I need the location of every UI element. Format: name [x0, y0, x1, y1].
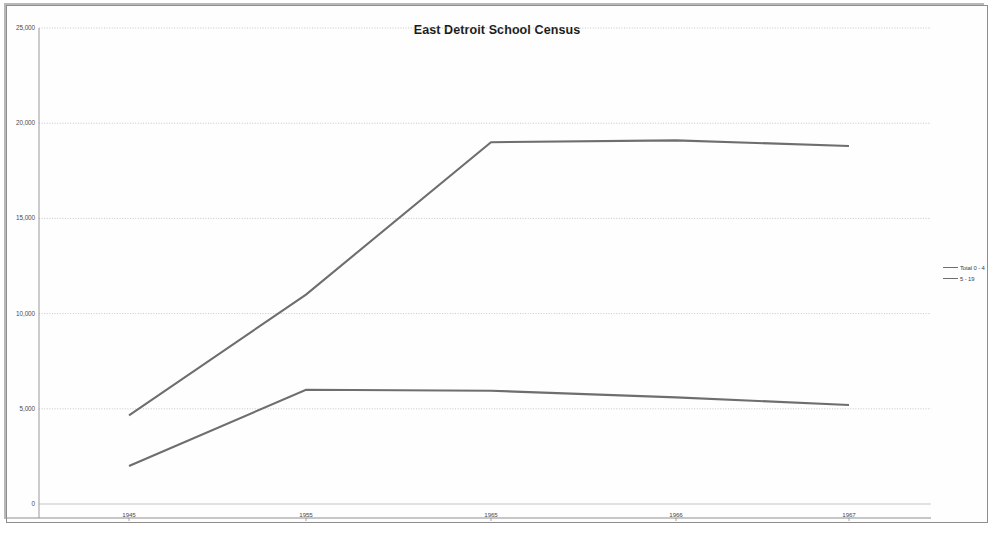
chart-page: East Detroit School Census 05,00010,0001… — [0, 0, 998, 535]
y-tick-label-25000: 25,000 — [1, 24, 35, 31]
y-tick-label-10000: 10,000 — [1, 310, 35, 317]
axis-lines — [7, 28, 931, 518]
y-tick-label-20000: 20,000 — [1, 119, 35, 126]
legend-swatch-line-icon — [943, 278, 958, 279]
line-chart-plot — [7, 6, 989, 524]
x-tick-label-1966: 1966 — [656, 511, 696, 518]
chart-frame: East Detroit School Census 05,00010,0001… — [6, 5, 988, 523]
legend-item-1[interactable]: 5 - 19 — [943, 273, 985, 284]
series-line-1 — [129, 390, 849, 466]
chart-legend: Total 0 - 45 - 19 — [943, 262, 985, 284]
y-tick-label-5000: 5,000 — [1, 405, 35, 412]
gridlines — [39, 28, 931, 504]
y-tick-label-0: 0 — [1, 500, 35, 507]
legend-item-label: Total 0 - 4 — [960, 265, 985, 271]
series-line-0 — [129, 140, 849, 415]
x-tick-label-1955: 1955 — [286, 511, 326, 518]
x-tick-label-1945: 1945 — [109, 511, 149, 518]
x-tick-label-1967: 1967 — [829, 511, 869, 518]
legend-swatch-line-icon — [943, 267, 958, 268]
legend-item-label: 5 - 19 — [960, 276, 974, 282]
series-lines — [129, 140, 849, 466]
y-tick-label-15000: 15,000 — [1, 214, 35, 221]
legend-item-0[interactable]: Total 0 - 4 — [943, 262, 985, 273]
x-tick-label-1965: 1965 — [471, 511, 511, 518]
